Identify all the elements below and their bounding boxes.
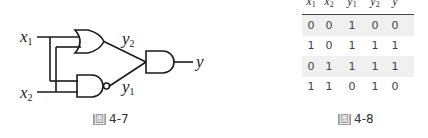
- input-label-x1: x1: [20, 28, 33, 47]
- table-row: 0 0 1 0 0: [302, 15, 414, 36]
- header-x2: x2: [320, 0, 338, 10]
- header-y2: y2: [366, 0, 384, 10]
- cell: 1: [366, 80, 384, 93]
- or-gate: [75, 30, 104, 53]
- output-label-y: y: [196, 53, 204, 70]
- header-y: y: [384, 0, 406, 7]
- and-gate: [146, 51, 174, 73]
- cell: 1: [320, 80, 338, 93]
- cell: 1: [338, 19, 366, 32]
- logic-circuit-diagram: x1 x2 y2 y1 y 圖4-7: [0, 0, 230, 138]
- cell: 1: [320, 60, 338, 73]
- figure-caption-4-7: 圖4-7: [93, 113, 129, 125]
- cell: 1: [366, 39, 384, 52]
- truth-table: x1 x2 y1 y2 y 0 0 1 0 0 1 0 1 1 1 0 1 1 …: [302, 0, 414, 97]
- header-x1: x1: [302, 0, 320, 10]
- cell: 0: [320, 19, 338, 32]
- cell: 0: [302, 19, 320, 32]
- cell: 0: [338, 80, 366, 93]
- nand-bubble: [104, 83, 110, 89]
- cell: 1: [302, 39, 320, 52]
- cell: 1: [384, 39, 406, 52]
- cell: 1: [338, 60, 366, 73]
- cell: 1: [384, 60, 406, 73]
- cell: 0: [366, 19, 384, 32]
- cell: 0: [384, 19, 406, 32]
- cell: 0: [384, 80, 406, 93]
- cell: 1: [338, 39, 366, 52]
- figure-glyph: 圖: [338, 114, 351, 125]
- table-row: 1 0 1 1 1: [302, 36, 414, 57]
- cell: 1: [302, 80, 320, 93]
- figure-glyph: 圖: [93, 114, 106, 125]
- cell: 0: [302, 60, 320, 73]
- header-y1: y1: [338, 0, 366, 10]
- label-y1: y1: [122, 78, 135, 97]
- table-row: 0 1 1 1 1: [302, 56, 414, 77]
- nand-gate: [77, 75, 103, 97]
- input-label-x2: x2: [20, 84, 33, 103]
- figure-caption-4-8: 圖4-8: [338, 113, 374, 125]
- cell: 0: [320, 39, 338, 52]
- table-row: 1 1 0 1 0: [302, 77, 414, 98]
- truth-table-header: x1 x2 y1 y2 y: [302, 0, 414, 15]
- label-y2: y2: [122, 30, 135, 49]
- cell: 1: [366, 60, 384, 73]
